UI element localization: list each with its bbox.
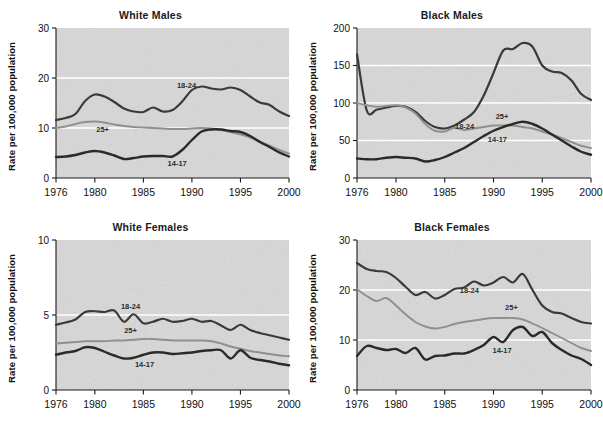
svg-text:20: 20 bbox=[339, 285, 351, 296]
svg-text:10: 10 bbox=[38, 235, 50, 246]
svg-text:1995: 1995 bbox=[229, 186, 253, 198]
svg-text:2000: 2000 bbox=[579, 186, 603, 198]
svg-text:14-17: 14-17 bbox=[488, 135, 507, 144]
svg-text:200: 200 bbox=[333, 23, 350, 34]
svg-text:5: 5 bbox=[43, 310, 49, 321]
svg-text:1980: 1980 bbox=[83, 186, 107, 198]
svg-text:150: 150 bbox=[333, 60, 350, 71]
line-chart-white-females: 051019761980198519901995200018-2425+14-1… bbox=[0, 212, 301, 424]
svg-text:1985: 1985 bbox=[433, 186, 457, 198]
svg-text:25+: 25+ bbox=[124, 326, 137, 335]
svg-text:25+: 25+ bbox=[496, 112, 509, 121]
line-chart-black-males: 05010015020019761980198519901995200018-2… bbox=[301, 0, 603, 212]
svg-text:0: 0 bbox=[344, 173, 350, 184]
svg-text:0: 0 bbox=[344, 385, 350, 396]
svg-text:50: 50 bbox=[339, 135, 351, 146]
svg-text:25+: 25+ bbox=[96, 125, 109, 134]
panel-white-males: White Males Rate per 100,000 population … bbox=[0, 0, 301, 212]
line-chart-white-males: 010203019761980198519901995200018-2425+1… bbox=[0, 0, 301, 212]
svg-text:1985: 1985 bbox=[132, 398, 156, 410]
svg-text:2000: 2000 bbox=[277, 186, 301, 198]
svg-text:1990: 1990 bbox=[482, 398, 506, 410]
svg-text:30: 30 bbox=[38, 23, 50, 34]
svg-text:0: 0 bbox=[43, 173, 49, 184]
svg-text:100: 100 bbox=[333, 98, 350, 109]
svg-text:10: 10 bbox=[339, 335, 351, 346]
svg-text:1976: 1976 bbox=[345, 186, 369, 198]
svg-text:1980: 1980 bbox=[384, 398, 408, 410]
svg-text:1995: 1995 bbox=[531, 186, 555, 198]
svg-text:2000: 2000 bbox=[579, 398, 603, 410]
svg-text:1985: 1985 bbox=[132, 186, 156, 198]
svg-text:1990: 1990 bbox=[180, 398, 204, 410]
panel-black-females: Black Females Rate per 100,000 populatio… bbox=[301, 212, 603, 424]
svg-text:1995: 1995 bbox=[531, 398, 555, 410]
svg-text:1976: 1976 bbox=[44, 398, 68, 410]
svg-text:30: 30 bbox=[339, 235, 351, 246]
plot-area: 05010015020019761980198519901995200018-2… bbox=[301, 0, 603, 212]
svg-text:25+: 25+ bbox=[505, 303, 518, 312]
svg-text:1980: 1980 bbox=[384, 186, 408, 198]
svg-text:2000: 2000 bbox=[277, 398, 301, 410]
plot-area: 010203019761980198519901995200018-2425+1… bbox=[0, 0, 301, 212]
plot-area: 051019761980198519901995200018-2425+14-1… bbox=[0, 212, 301, 424]
svg-text:1976: 1976 bbox=[345, 398, 369, 410]
svg-text:18-24: 18-24 bbox=[177, 81, 197, 90]
plot-area: 010203019761980198519901995200018-2425+1… bbox=[301, 212, 603, 424]
svg-text:1985: 1985 bbox=[433, 398, 457, 410]
svg-text:14-17: 14-17 bbox=[168, 159, 187, 168]
panel-white-females: White Females Rate per 100,000 populatio… bbox=[0, 212, 301, 424]
svg-text:1980: 1980 bbox=[83, 398, 107, 410]
svg-text:10: 10 bbox=[38, 123, 50, 134]
svg-text:1990: 1990 bbox=[180, 186, 204, 198]
svg-text:1990: 1990 bbox=[482, 186, 506, 198]
svg-text:14-17: 14-17 bbox=[492, 346, 511, 355]
svg-text:18-24: 18-24 bbox=[460, 286, 480, 295]
svg-text:0: 0 bbox=[43, 385, 49, 396]
svg-text:18-24: 18-24 bbox=[121, 302, 141, 311]
svg-text:1976: 1976 bbox=[44, 186, 68, 198]
svg-text:1995: 1995 bbox=[229, 398, 253, 410]
line-chart-black-females: 010203019761980198519901995200018-2425+1… bbox=[301, 212, 603, 424]
svg-text:18-24: 18-24 bbox=[455, 122, 475, 131]
figure-grid: White Males Rate per 100,000 population … bbox=[0, 0, 603, 424]
panel-black-males: Black Males Rate per 100,000 population … bbox=[301, 0, 603, 212]
svg-text:14-17: 14-17 bbox=[135, 360, 154, 369]
svg-text:20: 20 bbox=[38, 73, 50, 84]
